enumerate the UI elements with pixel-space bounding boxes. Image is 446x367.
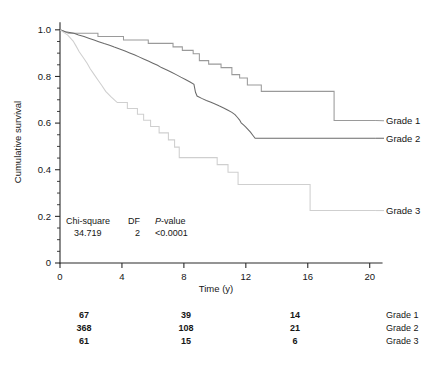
stat-header-df: DF	[128, 216, 140, 226]
y-tick-label: 0.4	[38, 164, 51, 175]
series-label-1: Grade 1	[386, 115, 420, 126]
y-tick-label: 1.0	[38, 24, 51, 35]
x-axis-title: Time (y)	[199, 283, 233, 294]
x-tick-label: 12	[241, 271, 252, 282]
risk-count: 14	[290, 310, 300, 320]
y-tick-label: 0	[46, 257, 51, 268]
y-tick-label: 0.6	[38, 117, 51, 128]
y-axis: 00.20.40.60.81.0	[38, 23, 60, 269]
statistics-annotation: Chi-square DF P-value 34.719 2 <0.0001	[66, 216, 188, 238]
y-tick-label: 0.2	[38, 211, 51, 222]
risk-count: 61	[79, 336, 89, 346]
stat-header-chisquare: Chi-square	[66, 216, 110, 226]
stat-value-chisquare: 34.719	[74, 228, 102, 238]
risk-count: 67	[79, 310, 89, 320]
survival-curve-1	[60, 30, 376, 121]
stat-value-pvalue: <0.0001	[155, 228, 188, 238]
x-tick-label: 0	[57, 271, 62, 282]
series-label-3: Grade 3	[386, 205, 420, 216]
risk-count: 39	[181, 310, 191, 320]
survival-chart-figure: 00.20.40.60.81.0 048121620 Cumulative su…	[0, 0, 446, 367]
survival-curve-2	[60, 30, 376, 138]
risk-count: 108	[178, 323, 193, 333]
risk-count: 21	[290, 323, 300, 333]
x-tick-label: 20	[364, 271, 375, 282]
y-axis-title: Cumulative survival	[12, 101, 23, 183]
series-labels: Grade 1Grade 2Grade 3	[376, 115, 420, 216]
risk-table: 673914Grade 136810821Grade 261156Grade 3	[76, 310, 418, 346]
stat-header-pvalue: P-value	[155, 216, 186, 226]
risk-row-label: Grade 1	[386, 310, 419, 320]
stat-value-df: 2	[135, 228, 140, 238]
x-axis: 048121620	[57, 263, 382, 282]
risk-row-label: Grade 3	[386, 336, 419, 346]
risk-count: 6	[292, 336, 297, 346]
survival-curves	[60, 30, 376, 211]
risk-row-label: Grade 2	[386, 323, 419, 333]
x-tick-label: 8	[181, 271, 186, 282]
series-label-2: Grade 2	[386, 133, 420, 144]
x-tick-label: 16	[302, 271, 313, 282]
kaplan-meier-chart: 00.20.40.60.81.0 048121620 Cumulative su…	[0, 0, 446, 367]
risk-count: 368	[76, 323, 91, 333]
risk-count: 15	[181, 336, 191, 346]
y-tick-label: 0.8	[38, 71, 51, 82]
x-tick-label: 4	[119, 271, 124, 282]
survival-curve-3	[60, 30, 376, 211]
